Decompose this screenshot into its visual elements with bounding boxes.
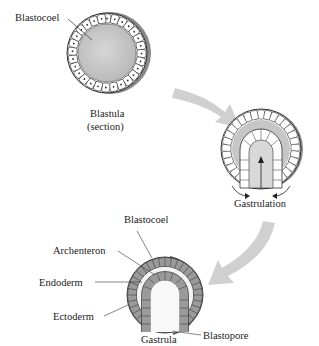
label-gastrula: Gastrula <box>141 334 177 346</box>
label-ectoderm: Ectoderm <box>53 311 94 323</box>
label-endoderm: Endoderm <box>39 277 83 289</box>
ectoderm-leader <box>104 305 128 316</box>
gastrulation-embryo <box>221 109 303 199</box>
gastrula <box>95 231 203 335</box>
gastrula-blastocoel-leader <box>137 231 152 258</box>
arrow-right-down-icon <box>172 88 240 128</box>
label-blastopore: Blastopore <box>203 330 249 342</box>
label-blastula: Blastula <box>90 108 124 120</box>
label-blastula-blastocoel: Blastocoel <box>15 12 59 24</box>
gastrulation-diagram <box>0 0 319 346</box>
label-gastrula-blastocoel: Blastocoel <box>124 214 168 226</box>
label-blastula-section: (section) <box>87 121 124 133</box>
arrow-down-left-icon <box>208 221 275 285</box>
label-archenteron: Archenteron <box>53 245 105 257</box>
label-gastrulation: Gastrulation <box>234 198 286 210</box>
blastula <box>67 12 151 94</box>
